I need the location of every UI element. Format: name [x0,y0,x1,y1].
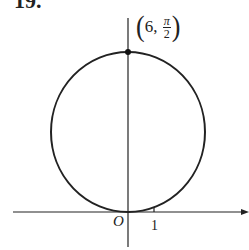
close-paren: ) [172,13,181,42]
open-paren: ( [136,13,145,42]
theta-numerator: π [163,15,171,28]
polar-graph [0,0,249,250]
point-comma: , [153,17,157,37]
x-tick-label: 1 [151,218,158,234]
theta-denominator: 2 [164,28,170,40]
x-axis-arrow-icon [241,209,249,215]
point-theta: π 2 [163,15,171,40]
origin-label: O [113,213,124,230]
marked-point [125,49,131,55]
point-r: 6 [145,17,154,37]
point-label: ( 6, π 2 ) [136,14,180,40]
